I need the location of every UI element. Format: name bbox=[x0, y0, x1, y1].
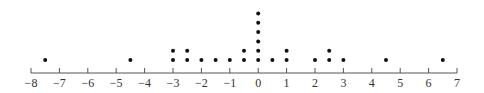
x-tick-label: 7 bbox=[454, 76, 460, 90]
x-axis-tick-labels: −8−7−6−5−4−3−2−101234567 bbox=[25, 76, 460, 90]
data-dot bbox=[270, 58, 274, 62]
data-dot bbox=[171, 49, 175, 53]
x-tick-label: −8 bbox=[25, 76, 38, 90]
data-dots bbox=[43, 12, 445, 63]
data-dot bbox=[256, 21, 260, 25]
data-dot bbox=[199, 58, 203, 62]
data-dot bbox=[256, 12, 260, 16]
data-dot bbox=[256, 49, 260, 53]
data-dot bbox=[256, 30, 260, 34]
x-tick-label: −3 bbox=[167, 76, 180, 90]
data-dot bbox=[43, 58, 47, 62]
data-dot bbox=[171, 58, 175, 62]
x-tick-label: 2 bbox=[312, 76, 318, 90]
data-dot bbox=[327, 49, 331, 53]
x-tick-label: 6 bbox=[426, 76, 432, 90]
data-dot bbox=[285, 49, 289, 53]
data-dot bbox=[214, 58, 218, 62]
data-dot bbox=[313, 58, 317, 62]
data-dot bbox=[185, 58, 189, 62]
x-tick-label: −6 bbox=[81, 76, 94, 90]
x-tick-label: 3 bbox=[340, 76, 346, 90]
x-tick-label: 0 bbox=[255, 76, 261, 90]
x-tick-label: 1 bbox=[284, 76, 290, 90]
data-dot bbox=[256, 58, 260, 62]
x-tick-label: −2 bbox=[195, 76, 208, 90]
data-dot bbox=[384, 58, 388, 62]
dot-plot-chart: −8−7−6−5−4−3−2−101234567 bbox=[0, 0, 484, 93]
x-tick-label: −7 bbox=[53, 76, 66, 90]
x-tick-label: 4 bbox=[369, 76, 375, 90]
x-tick-label: 5 bbox=[397, 76, 403, 90]
data-dot bbox=[341, 58, 345, 62]
data-dot bbox=[242, 58, 246, 62]
x-axis-ticks bbox=[31, 68, 457, 73]
data-dot bbox=[185, 49, 189, 53]
x-tick-label: −4 bbox=[138, 76, 151, 90]
data-dot bbox=[285, 58, 289, 62]
data-dot bbox=[327, 58, 331, 62]
x-tick-label: −1 bbox=[223, 76, 236, 90]
data-dot bbox=[441, 58, 445, 62]
x-tick-label: −5 bbox=[110, 76, 123, 90]
data-dot bbox=[242, 49, 246, 53]
data-dot bbox=[128, 58, 132, 62]
data-dot bbox=[228, 58, 232, 62]
data-dot bbox=[256, 39, 260, 43]
